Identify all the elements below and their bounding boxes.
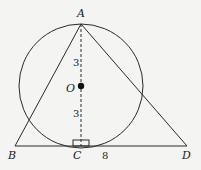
measure-oc: 3 [73,108,79,119]
label-o: O [66,82,75,95]
measure-ao: 3 [73,57,79,68]
label-b: B [7,149,16,162]
label-a: A [76,7,85,20]
measure-cd: 8 [102,150,108,161]
label-c: C [73,149,82,162]
geometry-diagram: A O B C D 3 3 8 [0,0,201,170]
label-d: D [181,149,191,162]
center-point-o [78,83,84,89]
segment-ad [81,24,187,146]
